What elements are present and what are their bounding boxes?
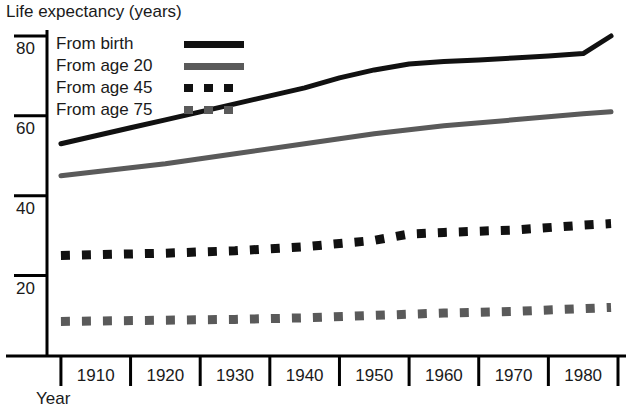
x-tick-label: 1920	[135, 366, 195, 386]
legend-item-from-age-20: From age 20	[56, 55, 246, 77]
x-tick-label: 1950	[344, 366, 404, 386]
x-tick-label: 1940	[275, 366, 335, 386]
x-tick-label: 1910	[66, 366, 126, 386]
legend-item-from-birth: From birth	[56, 33, 246, 55]
chart-legend: From birth From age 20 From age 45 From …	[56, 33, 246, 121]
series-line	[61, 307, 611, 321]
legend-label-from-age-45: From age 45	[56, 78, 184, 98]
series-line	[61, 224, 611, 256]
y-tick-label: 60	[16, 119, 35, 139]
x-axis-title: Year	[36, 389, 70, 409]
y-tick-label: 40	[16, 199, 35, 219]
life-expectancy-chart: Life expectancy (years) 20406080 1910192…	[0, 0, 626, 414]
legend-label-from-birth: From birth	[56, 34, 184, 54]
legend-label-from-age-75: From age 75	[56, 100, 184, 120]
series-line	[61, 112, 611, 176]
legend-swatch-from-birth	[184, 41, 244, 48]
x-tick-label: 1980	[553, 366, 613, 386]
legend-item-from-age-45: From age 45	[56, 77, 246, 99]
legend-swatch-from-age-45	[184, 84, 244, 92]
x-tick-label: 1960	[414, 366, 474, 386]
x-tick-label: 1930	[205, 366, 265, 386]
legend-label-from-age-20: From age 20	[56, 56, 184, 76]
legend-swatch-from-age-20	[184, 63, 244, 70]
y-axis-ticks	[14, 36, 47, 276]
x-tick-label: 1970	[484, 366, 544, 386]
y-tick-label: 80	[16, 39, 35, 59]
legend-item-from-age-75: From age 75	[56, 99, 246, 121]
y-tick-label: 20	[16, 279, 35, 299]
legend-swatch-from-age-75	[184, 106, 244, 114]
